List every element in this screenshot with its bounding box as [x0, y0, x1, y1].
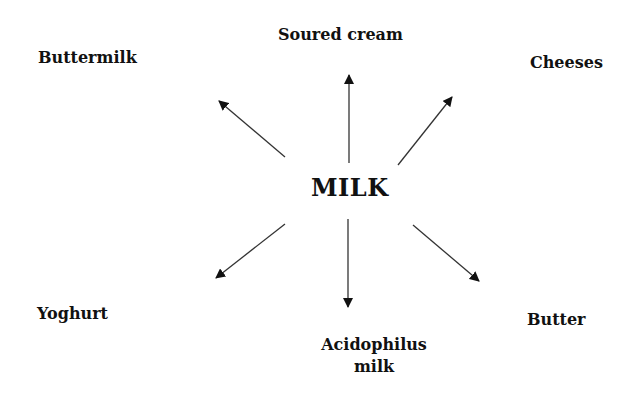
arrow-to-buttermilk: [219, 101, 285, 157]
arrow-to-butter: [413, 225, 479, 281]
milk-products-diagram: MILK Soured cream Cheeses Butter Acidoph…: [0, 0, 643, 394]
arrow-to-cheeses: [398, 97, 452, 165]
node-acidophilus-milk-line1: Acidophilus: [306, 334, 442, 356]
node-soured-cream: Soured cream: [278, 27, 403, 43]
node-yoghurt: Yoghurt: [37, 306, 108, 322]
node-acidophilus-milk: Acidophilus milk: [306, 334, 442, 377]
node-acidophilus-milk-line2: milk: [306, 356, 442, 378]
center-node-milk: MILK: [311, 176, 389, 200]
node-cheeses: Cheeses: [530, 55, 603, 71]
node-butter: Butter: [527, 312, 586, 328]
arrow-to-yoghurt: [216, 224, 285, 278]
node-buttermilk: Buttermilk: [38, 50, 137, 66]
